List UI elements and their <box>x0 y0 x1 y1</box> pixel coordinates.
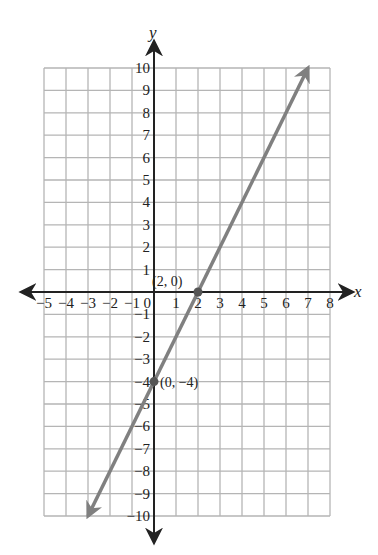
y-tick-label: −7 <box>134 441 150 457</box>
x-tick-label: 8 <box>326 295 334 311</box>
y-tick-label: 5 <box>143 172 151 188</box>
y-tick-label: 2 <box>143 239 151 255</box>
coordinate-plane: −5−4−3−2−1123456780−10−9−8−7−6−5−4−3−2−1… <box>0 0 378 555</box>
point-label: (0, −4) <box>160 375 199 391</box>
y-tick-label: 6 <box>143 150 151 166</box>
x-tick-label: 5 <box>260 295 268 311</box>
y-tick-label: 4 <box>143 194 151 210</box>
x-tick-label: −3 <box>80 295 96 311</box>
point-marker <box>194 288 203 297</box>
y-tick-label: −2 <box>134 329 150 345</box>
x-axis-label: x <box>353 282 362 301</box>
x-tick-label: 1 <box>172 295 180 311</box>
x-tick-label: 3 <box>216 295 224 311</box>
x-tick-label: 6 <box>282 295 290 311</box>
y-tick-label: −3 <box>134 351 150 367</box>
x-tick-label: −5 <box>36 295 52 311</box>
x-tick-label: 4 <box>238 295 246 311</box>
y-tick-label: 7 <box>143 127 151 143</box>
y-tick-label: 3 <box>143 217 151 233</box>
y-axis-label: y <box>147 23 157 42</box>
point-label: (2, 0) <box>152 274 183 290</box>
y-tick-label: −8 <box>134 463 150 479</box>
y-tick-label: 1 <box>143 262 151 278</box>
y-tick-label: −10 <box>127 508 150 524</box>
x-tick-label: −4 <box>58 295 74 311</box>
axes <box>22 42 352 542</box>
x-tick-label: −2 <box>102 295 118 311</box>
y-tick-label: 8 <box>143 105 151 121</box>
x-tick-label: 7 <box>304 295 312 311</box>
y-tick-label: −4 <box>134 374 150 390</box>
y-tick-label: 10 <box>135 60 150 76</box>
y-tick-label: 9 <box>143 82 151 98</box>
y-tick-label: −9 <box>134 486 150 502</box>
point-marker <box>150 377 159 386</box>
y-tick-label: −1 <box>134 306 150 322</box>
